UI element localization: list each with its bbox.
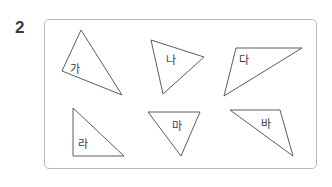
triangle-ba: 바 bbox=[230, 110, 293, 156]
triangle-ra: 라 bbox=[73, 108, 124, 156]
triangle-ga: 가 bbox=[62, 30, 122, 95]
triangle-label: 가 bbox=[70, 63, 80, 76]
triangle-label: 나 bbox=[166, 54, 176, 67]
triangle-na: 나 bbox=[151, 40, 204, 94]
triangle-label: 마 bbox=[172, 120, 182, 133]
triangle-label: 바 bbox=[261, 118, 271, 131]
triangle-ma: 마 bbox=[148, 112, 200, 156]
triangle-da: 다 bbox=[224, 48, 302, 96]
triangle-figure: 가 나 다 라 마 바 bbox=[0, 0, 332, 187]
triangle-label: 다 bbox=[239, 54, 249, 67]
triangle-label: 라 bbox=[78, 138, 88, 151]
